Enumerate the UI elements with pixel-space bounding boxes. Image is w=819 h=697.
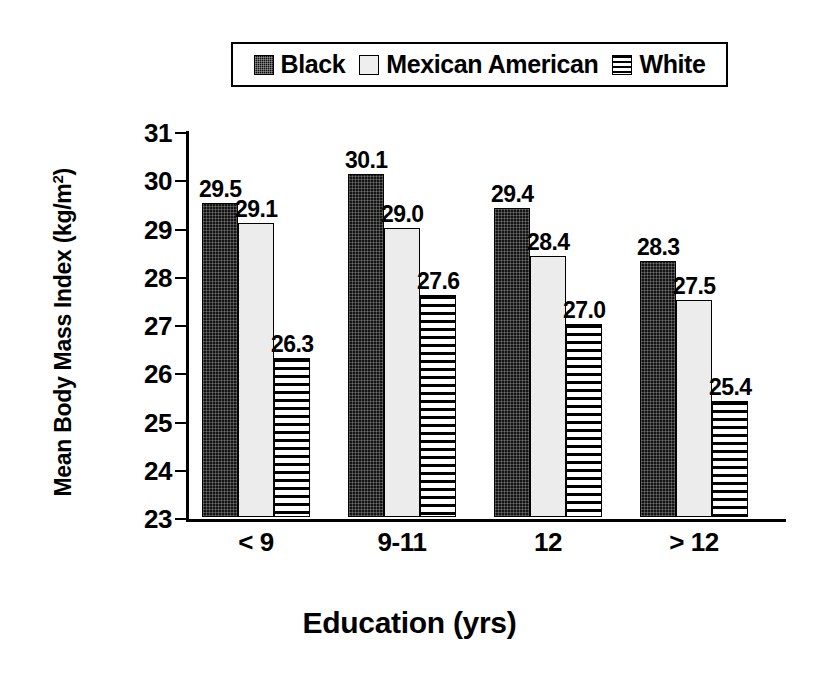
bar: 26.3 [274,358,310,517]
bar-value-label: 29.1 [235,198,277,221]
bar: 27.0 [566,324,602,517]
bar: 27.6 [420,295,456,517]
bar: 29.0 [384,228,420,518]
legend-label-mexican-american: Mexican American [386,52,598,77]
y-tick-mark [175,518,187,520]
bar-value-label: 27.0 [563,299,605,322]
legend-swatch-white-icon [612,55,632,75]
y-tick-label: 26 [144,359,172,390]
bar-value-label: 27.6 [417,270,459,293]
bar: 30.1 [348,174,384,517]
legend-label-white: White [639,52,705,77]
bar-value-label: 29.0 [381,203,423,226]
legend-entry-white: White [612,52,705,77]
bar: 29.4 [494,208,530,517]
legend-entry-black: Black [254,52,346,77]
x-axis-title: Education (yrs) [0,606,819,640]
bar-value-label: 28.3 [637,236,679,259]
chart-legend: Black Mexican American White [231,42,728,87]
bar-value-label: 30.1 [345,149,387,172]
bar-value-label: 28.4 [527,231,569,254]
bar-value-label: 25.4 [709,376,751,399]
y-tick-mark [175,132,187,134]
y-tick-label: 31 [144,118,172,149]
y-tick-mark [175,180,187,182]
y-axis-title-superscript: 2 [49,175,66,183]
bar: 29.1 [238,223,274,517]
y-tick-label: 29 [144,214,172,245]
y-tick-label: 27 [144,311,172,342]
y-tick-mark [175,229,187,231]
y-tick-mark [175,470,187,472]
bar-value-label: 29.4 [491,183,533,206]
bar: 25.4 [712,401,748,517]
y-axis-title-close: ) [50,168,76,175]
bmi-education-bar-chart: Black Mexican American White Mean Body M… [0,0,819,697]
x-axis-line [186,519,786,522]
y-axis-title-text: Mean Body Mass Index (kg/m [50,184,76,497]
y-tick-label: 25 [144,407,172,438]
bar-value-label: 26.3 [271,333,313,356]
y-tick-label: 24 [144,455,172,486]
legend-entry-mexican-american: Mexican American [359,52,598,77]
y-tick-label: 30 [144,166,172,197]
legend-swatch-mexican-american-icon [359,55,379,75]
x-category-label: < 9 [202,527,310,558]
legend-label-black: Black [281,52,346,77]
bar-group-3: 29.428.427.012 [494,131,602,517]
plot-area: 313029282726252423 29.529.126.3< 930.129… [186,131,786,520]
bar: 27.5 [676,300,712,517]
bar: 28.4 [530,256,566,517]
bar: 29.5 [202,203,238,517]
bar-group-1: 29.529.126.3< 9 [202,131,310,517]
bar-group-4: 28.327.525.4> 12 [640,131,748,517]
legend-swatch-black-icon [254,55,274,75]
y-tick-label: 23 [144,504,172,535]
bar-value-label: 27.5 [673,275,715,298]
x-category-label: 9-11 [348,527,456,558]
y-tick-mark [175,373,187,375]
x-category-label: 12 [494,527,602,558]
y-tick-mark [175,277,187,279]
y-tick-label: 28 [144,262,172,293]
y-tick-mark [175,325,187,327]
y-tick-mark [175,422,187,424]
bar-group-2: 30.129.027.69-11 [348,131,456,517]
x-category-label: > 12 [640,527,748,558]
bar: 28.3 [640,261,676,517]
y-axis-title: Mean Body Mass Index (kg/m2) [49,117,78,547]
